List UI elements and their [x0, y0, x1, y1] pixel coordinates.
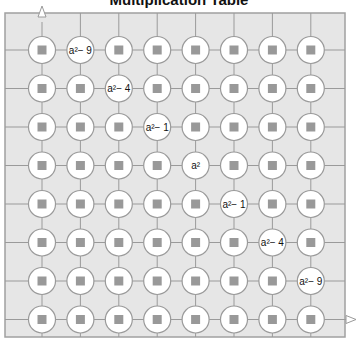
- square-icon: [268, 84, 277, 93]
- square-icon: [114, 277, 123, 286]
- square-icon: [268, 277, 277, 286]
- square-icon: [191, 46, 200, 55]
- node-label: a²− 1: [222, 199, 246, 210]
- square-icon: [230, 46, 239, 55]
- square-icon: [153, 277, 162, 286]
- grid-background: [5, 13, 345, 337]
- square-icon: [38, 277, 47, 286]
- square-icon: [76, 84, 85, 93]
- square-icon: [230, 315, 239, 324]
- multiplication-grid: a²− 9a²− 4a²− 1a²a²− 1a²− 4a²− 9: [0, 0, 358, 351]
- square-icon: [191, 277, 200, 286]
- square-icon: [268, 315, 277, 324]
- square-icon: [38, 315, 47, 324]
- square-icon: [38, 46, 47, 55]
- square-icon: [191, 315, 200, 324]
- square-icon: [306, 161, 315, 170]
- square-icon: [268, 46, 277, 55]
- square-icon: [153, 238, 162, 247]
- square-icon: [114, 46, 123, 55]
- square-icon: [38, 161, 47, 170]
- square-icon: [306, 84, 315, 93]
- square-icon: [114, 200, 123, 209]
- up-arrow-icon: [38, 6, 46, 17]
- node-label: a²− 9: [299, 276, 323, 287]
- square-icon: [114, 315, 123, 324]
- square-icon: [114, 123, 123, 132]
- node-label: a²: [191, 160, 201, 171]
- square-icon: [230, 84, 239, 93]
- node-label: a²− 4: [107, 83, 131, 94]
- node-label: a²− 1: [146, 122, 170, 133]
- square-icon: [230, 123, 239, 132]
- right-arrow-icon: [346, 316, 356, 324]
- square-icon: [268, 123, 277, 132]
- square-icon: [306, 315, 315, 324]
- square-icon: [38, 200, 47, 209]
- square-icon: [76, 277, 85, 286]
- square-icon: [191, 123, 200, 132]
- square-icon: [153, 200, 162, 209]
- square-icon: [76, 315, 85, 324]
- square-icon: [76, 200, 85, 209]
- square-icon: [38, 238, 47, 247]
- square-icon: [191, 238, 200, 247]
- node-label: a²− 4: [261, 237, 285, 248]
- square-icon: [38, 123, 47, 132]
- square-icon: [114, 161, 123, 170]
- square-icon: [306, 238, 315, 247]
- square-icon: [153, 161, 162, 170]
- square-icon: [230, 277, 239, 286]
- square-icon: [191, 200, 200, 209]
- square-icon: [230, 238, 239, 247]
- square-icon: [306, 46, 315, 55]
- square-icon: [76, 238, 85, 247]
- square-icon: [191, 84, 200, 93]
- square-icon: [153, 84, 162, 93]
- square-icon: [76, 161, 85, 170]
- square-icon: [38, 84, 47, 93]
- square-icon: [268, 200, 277, 209]
- node-label: a²− 9: [69, 45, 93, 56]
- square-icon: [268, 161, 277, 170]
- square-icon: [306, 123, 315, 132]
- square-icon: [306, 200, 315, 209]
- square-icon: [153, 315, 162, 324]
- square-icon: [76, 123, 85, 132]
- square-icon: [230, 161, 239, 170]
- square-icon: [153, 46, 162, 55]
- square-icon: [114, 238, 123, 247]
